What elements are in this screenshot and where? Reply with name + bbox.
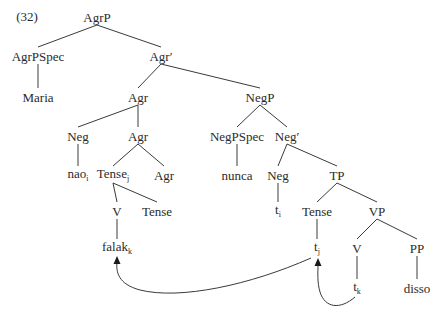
tree-edge: [113, 144, 138, 166]
tree-node-pp: PP: [410, 242, 424, 255]
arrowhead-icon: [114, 256, 121, 264]
node-index: j: [127, 174, 129, 183]
node-label: nunca: [221, 168, 252, 183]
tree-node-agrpspec: AgrPSpec: [12, 50, 65, 63]
tree-node-tense-head: Tense: [302, 205, 332, 218]
node-label: AgrPSpec: [12, 49, 65, 64]
tree-node-disso: disso: [404, 282, 431, 295]
tree-node-agr-complex: Agr: [128, 130, 148, 143]
tree-node-t-i: ti: [275, 203, 281, 219]
node-label: falak: [102, 239, 128, 254]
tree-node-neg-head: Neg: [267, 169, 289, 182]
tree-edge: [337, 183, 377, 202]
movement-arrow-t_k-to-t_j: [318, 265, 355, 306]
tree-edge: [237, 105, 260, 127]
node-label: Tense: [97, 166, 127, 181]
node-label: V: [112, 204, 121, 219]
tree-edge: [287, 144, 337, 166]
tree-node-tense-inner: Tense: [142, 205, 172, 218]
tree-edge: [113, 183, 117, 202]
node-label: NegP: [246, 90, 275, 105]
node-label: V: [352, 241, 361, 256]
node-index: i: [86, 174, 88, 183]
tree-node-neg-bar: Neg′: [275, 130, 300, 143]
tree-node-negp: NegP: [246, 91, 275, 104]
tree-node-nunca: nunca: [221, 169, 252, 182]
node-label: Agr: [154, 168, 174, 183]
tree-edge: [138, 64, 161, 88]
tree-edge: [113, 183, 157, 202]
tree-node-v-upper: V: [112, 205, 121, 218]
tree-node-negpspec: NegPSpec: [210, 130, 264, 143]
tree-node-vp: VP: [369, 205, 386, 218]
tree-node-agrp: AgrP: [83, 11, 110, 24]
node-label: Neg: [67, 129, 89, 144]
tree-edge: [38, 25, 97, 47]
example-number: (32): [16, 9, 38, 25]
node-label: NegPSpec: [210, 129, 264, 144]
tree-node-tp: TP: [329, 169, 344, 182]
tree-node-t-k: tk: [353, 280, 361, 296]
node-label: PP: [410, 241, 424, 256]
node-label: Neg′: [275, 129, 300, 144]
tree-edge: [138, 144, 164, 166]
tree-node-agr-bar: Agr′: [149, 50, 172, 63]
node-label: nao: [67, 166, 86, 181]
tree-node-agr-inner: Agr: [154, 169, 174, 182]
tree-edge: [260, 105, 287, 127]
tree-edge: [377, 219, 417, 239]
node-index: j: [318, 247, 320, 256]
node-label: disso: [404, 281, 431, 296]
tree-node-t-j: tj: [314, 240, 320, 256]
movement-arrow-t_j-to-falak: [117, 258, 311, 293]
movement-arrows: [114, 256, 356, 306]
tree-edge: [78, 105, 138, 127]
syntax-tree-diagram: (32) AgrPAgrPSpecMariaAgr′AgrNegPNegnaoi…: [0, 0, 439, 312]
tree-edge: [357, 219, 377, 239]
tree-node-v-lower: V: [352, 242, 361, 255]
node-label: Agr: [128, 129, 148, 144]
node-label: Agr: [128, 90, 148, 105]
tree-node-falak: falakk: [102, 240, 132, 256]
node-index: i: [279, 210, 281, 219]
node-index: k: [357, 287, 361, 296]
tree-edge: [317, 183, 337, 202]
tree-node-neg-clitic: Neg: [67, 130, 89, 143]
node-label: Tense: [142, 204, 172, 219]
node-index: k: [128, 247, 132, 256]
tree-node-tense-j: Tensej: [97, 167, 129, 183]
tree-node-maria: Maria: [22, 91, 53, 104]
node-label: Neg: [267, 168, 289, 183]
tree-edge: [161, 64, 260, 88]
tree-node-nao: naoi: [67, 167, 88, 183]
node-label: AgrP: [83, 10, 110, 25]
node-label: VP: [369, 204, 386, 219]
tree-node-agr-head: Agr: [128, 91, 148, 104]
node-label: Maria: [22, 90, 53, 105]
node-label: Agr′: [149, 49, 172, 64]
tree-lines: [0, 0, 439, 312]
tree-edge: [97, 25, 161, 47]
node-label: Tense: [302, 204, 332, 219]
arrowhead-icon: [315, 258, 322, 266]
node-label: TP: [329, 168, 344, 183]
tree-edge: [278, 144, 287, 166]
